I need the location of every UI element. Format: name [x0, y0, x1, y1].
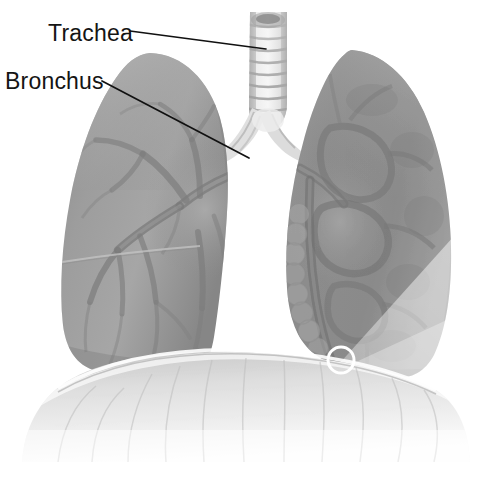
trachea-label: Trachea [48, 20, 133, 46]
lungs-illustration-figure: Trachea Bronchus [0, 0, 490, 486]
anatomy-illustration-canvas: Trachea Bronchus [0, 0, 490, 486]
bronchus-label: Bronchus [5, 68, 104, 94]
